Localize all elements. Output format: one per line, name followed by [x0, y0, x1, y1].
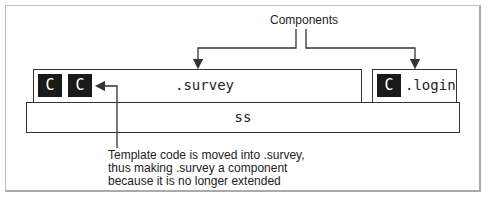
- annotation-line-1: Template code is moved into .survey,: [108, 148, 305, 162]
- annotation-line-3: because it is no longer extended: [108, 174, 281, 188]
- annotation-line-2: thus making .survey a component: [108, 161, 287, 175]
